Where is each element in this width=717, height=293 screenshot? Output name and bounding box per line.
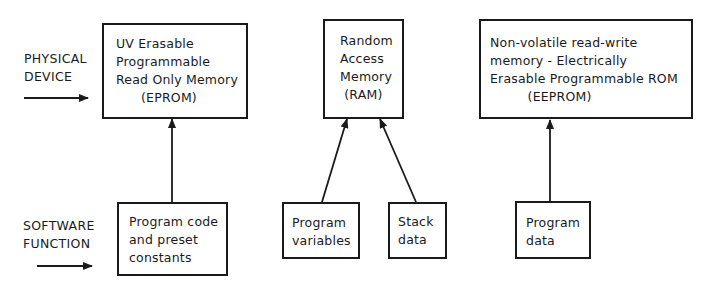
stack-data-box: Stack data [388,202,447,259]
box-line: UV Erasable [116,36,194,51]
box-line: Stack [398,214,434,229]
box-line: Erasable Programmable ROM [490,71,678,86]
program-variables-text: Program variables [292,214,351,250]
box-line: data [526,233,555,248]
box-line: Access [340,51,384,66]
box-line: Program [526,215,580,230]
program-code-box: Program code and preset constants [117,202,228,276]
program-code-text: Program code and preset constants [129,213,218,267]
box-line: (RAM) [344,87,382,102]
box-line: variables [292,233,351,248]
eeprom-text: Non-volatile read-write memory - Electri… [490,34,678,106]
eprom-box: UV Erasable Programmable Read Only Memor… [102,23,248,119]
box-line: (EPROM) [141,90,197,105]
label-line: DEVICE [24,69,72,84]
ram-text: Random Access Memory (RAM) [340,32,393,104]
label-line: PHYSICAL [24,51,87,66]
eprom-text: UV Erasable Programmable Read Only Memor… [116,35,238,107]
box-line: memory - Electrically [490,53,627,68]
arrow-stack-data-to-ram [380,119,416,202]
software-function-label: SOFTWARE FUNCTION [23,217,95,253]
arrow-program-variables-to-ram [322,119,347,202]
box-line: constants [129,250,192,265]
box-line: Memory [340,69,392,84]
label-line: SOFTWARE [23,218,95,233]
box-line: Programmable [116,54,210,69]
box-line: Program [292,215,346,230]
program-data-box: Program data [515,201,591,259]
stack-data-text: Stack data [398,213,434,249]
box-line: and preset [129,232,198,247]
box-line: Program code [129,214,218,229]
eeprom-box: Non-volatile read-write memory - Electri… [479,19,693,119]
box-line: (EEPROM) [528,89,592,104]
box-line: data [398,232,427,247]
box-line: Read Only Memory [116,72,238,87]
physical-device-label: PHYSICAL DEVICE [24,50,87,86]
box-line: Random [340,33,393,48]
program-data-text: Program data [526,214,580,250]
box-line: Non-volatile read-write [490,35,637,50]
program-variables-box: Program variables [282,202,360,259]
ram-box: Random Access Memory (RAM) [323,19,404,119]
label-line: FUNCTION [23,236,90,251]
